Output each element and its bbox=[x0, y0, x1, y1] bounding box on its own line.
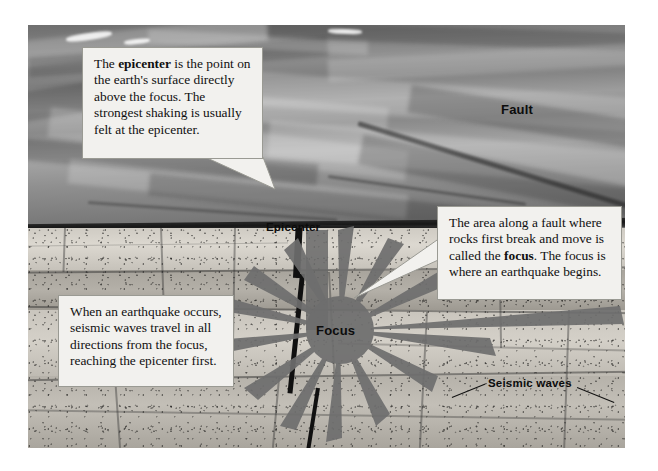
label-focus: Focus bbox=[316, 323, 355, 338]
callout-seismic-waves: When an earthquake occurs, seismic waves… bbox=[58, 295, 234, 387]
callout-epicenter-term: epicenter bbox=[118, 56, 171, 71]
callout-seismic-waves-text: When an earthquake occurs, seismic waves… bbox=[70, 304, 222, 368]
epicenter-callout-tail bbox=[205, 155, 285, 195]
callout-focus-term: focus bbox=[504, 248, 534, 263]
callout-focus: The area along a fault where rocks first… bbox=[437, 206, 622, 300]
epicenter-focus-column bbox=[306, 230, 328, 330]
label-epicenter: Epicenter bbox=[266, 221, 320, 233]
callout-epicenter: The epicenter is the point on the earth'… bbox=[82, 47, 263, 159]
diagram-canvas: Fault Epicenter Focus Seismic waves The … bbox=[0, 0, 658, 471]
callout-epicenter-lead: The bbox=[94, 56, 118, 71]
label-seismic-waves: Seismic waves bbox=[488, 377, 572, 389]
label-fault: Fault bbox=[501, 102, 533, 117]
